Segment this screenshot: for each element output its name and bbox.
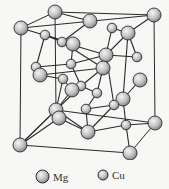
cu-atom bbox=[92, 88, 102, 98]
mg-atom bbox=[33, 68, 47, 82]
mg-atom bbox=[96, 61, 110, 75]
mg-atom bbox=[83, 14, 97, 28]
mg-atom bbox=[13, 138, 27, 152]
mg-atom bbox=[81, 125, 95, 139]
cell-edge bbox=[56, 110, 155, 123]
atoms bbox=[13, 5, 162, 160]
cu-atom bbox=[132, 52, 142, 62]
cu-atom bbox=[66, 59, 76, 69]
legend-item-cu: Cu bbox=[97, 169, 125, 181]
cu-atom bbox=[121, 120, 131, 130]
mg-atom bbox=[14, 21, 28, 35]
crystal-structure-diagram bbox=[0, 0, 169, 160]
mg-atom bbox=[48, 5, 62, 19]
cu-atom bbox=[58, 74, 68, 84]
legend-label-mg: Mg bbox=[53, 171, 68, 183]
cell-edge bbox=[20, 145, 130, 153]
mg-atom bbox=[123, 146, 137, 160]
mg-atom bbox=[148, 116, 162, 130]
legend: Mg Cu bbox=[0, 160, 169, 189]
cu-atom bbox=[107, 23, 117, 33]
bond bbox=[36, 64, 71, 67]
bond bbox=[20, 110, 56, 145]
mg-atom bbox=[52, 111, 66, 125]
mg-atom bbox=[121, 26, 135, 40]
mg-atom bbox=[65, 83, 79, 97]
cu-atom bbox=[109, 100, 119, 110]
legend-item-mg: Mg bbox=[35, 169, 68, 184]
cell-edge bbox=[55, 12, 56, 110]
cu-atom-icon bbox=[97, 169, 109, 181]
mg-atom-icon bbox=[35, 169, 50, 184]
cell-edge bbox=[55, 12, 154, 15]
cell-edge bbox=[154, 15, 155, 123]
cu-atom bbox=[40, 30, 50, 40]
mg-atom bbox=[147, 8, 161, 22]
mg-atom bbox=[66, 37, 80, 51]
bond bbox=[123, 33, 128, 99]
cu-atom bbox=[57, 37, 67, 47]
mg-atom bbox=[99, 48, 113, 62]
cell-edge bbox=[20, 28, 21, 145]
cu-atom bbox=[81, 104, 91, 114]
mg-atom bbox=[133, 73, 147, 87]
legend-label-cu: Cu bbox=[112, 169, 125, 181]
